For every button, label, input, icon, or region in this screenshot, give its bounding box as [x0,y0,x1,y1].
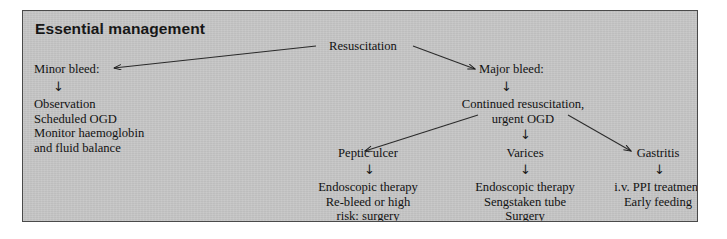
down-arrow-icon-major: ↓ [501,80,512,93]
essential-management-panel: Essential management Resuscitation Minor… [22,10,698,222]
node-gastritis: Gastritis [583,146,698,161]
node-peptic-ulcer-label: Peptic ulcer [338,146,398,160]
peptic-action-line-1: Endoscopic therapy [278,180,458,195]
gastritis-action-line-1: i.v. PPI treatment [583,180,698,195]
continued-line-2: urgent OGD [423,112,623,127]
node-resuscitation: Resuscitation [263,39,463,54]
down-arrow-icon-peptic: ↓ [364,163,375,176]
minor-action-line-4: and fluid balance [34,141,244,156]
minor-action-line-2: Scheduled OGD [34,112,244,127]
down-arrow-icon-gastritis: ↓ [654,163,665,176]
node-minor-actions: Observation Scheduled OGD Monitor haemog… [34,97,244,155]
node-peptic-ulcer: Peptic ulcer [278,146,458,161]
minor-action-line-3: Monitor haemoglobin [34,126,244,141]
continued-line-1: Continued resuscitation, [423,97,623,112]
node-varices-label: Varices [506,146,543,160]
node-major-bleed: Major bleed: [479,62,629,77]
peptic-action-line-3: risk: surgery [278,209,458,222]
node-gastritis-label: Gastritis [637,146,680,160]
node-minor-bleed: Minor bleed: [34,62,184,77]
down-arrow-icon-varices: ↓ [520,163,531,176]
peptic-action-line-2: Re-bleed or high [278,195,458,210]
varices-action-line-3: Surgery [435,209,615,222]
node-resuscitation-label: Resuscitation [329,39,397,53]
down-arrow-icon-minor: ↓ [53,80,64,93]
down-arrow-icon-continued: ↓ [520,128,531,141]
node-minor-bleed-label: Minor bleed: [34,62,99,76]
node-continued-resuscitation: Continued resuscitation, urgent OGD [423,97,623,126]
node-peptic-actions: Endoscopic therapy Re-bleed or high risk… [278,180,458,222]
minor-action-line-1: Observation [34,97,244,112]
node-major-bleed-label: Major bleed: [479,62,544,76]
node-gastritis-actions: i.v. PPI treatment Early feeding [583,180,698,209]
gastritis-action-line-2: Early feeding [583,195,698,210]
